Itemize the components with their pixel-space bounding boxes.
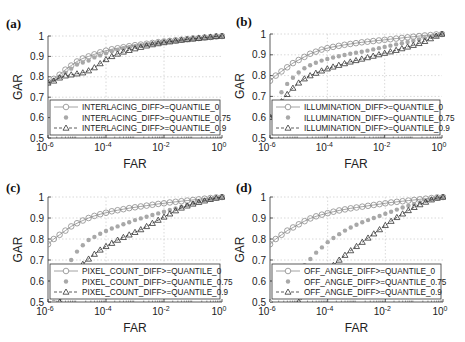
x-tick-label: 10-6 [258,305,275,317]
data-point [91,65,97,70]
data-point [343,228,347,232]
data-point [389,210,393,214]
data-point [313,70,319,75]
data-point [360,49,364,53]
data-point [81,243,85,247]
data-point [342,252,348,257]
data-point [273,324,279,329]
x-tick-label: 10-4 [316,305,333,317]
x-tick-label: 100 [211,141,226,153]
data-point [314,250,318,254]
data-point [354,243,360,248]
panel-d: (d)0.50.60.70.80.9110-610-410-2100FARGAR… [233,180,448,336]
data-point [121,222,125,226]
data-point [400,211,406,216]
data-point [285,82,289,86]
data-point [360,220,364,224]
data-point [69,258,73,262]
data-point [267,331,273,336]
legend-label: OFF_ANGLE_DIFF>=QUANTILE_0 [304,267,435,276]
data-point [284,312,290,317]
legend-label: PIXEL_COUNT_DIFF>=QUANTILE_0.75 [82,278,233,287]
data-point [81,60,85,64]
data-point [144,223,150,228]
data-point [126,232,132,237]
legend-marker [286,115,290,119]
x-tick-label: 10-6 [36,305,53,317]
x-tick-label: 10-6 [36,141,53,153]
panel-b: (b)0.50.60.70.80.9110-610-410-2100FARGAR… [233,14,455,171]
data-point [86,238,90,242]
data-point [382,45,386,49]
legend: ILLUMINATION_DIFF>=QUANTILE_0ILLUMINATIO… [272,100,455,135]
legend-label: ILLUMINATION_DIFF>=QUANTILE_0.75 [304,114,455,123]
data-point [92,235,96,239]
data-point [268,300,272,304]
data-point [349,225,353,229]
data-point [383,212,387,216]
data-point [103,243,109,248]
y-tick-label: 0.6 [30,112,44,123]
x-tick-label: 100 [431,141,446,153]
y-tick-label: 0.9 [252,49,266,60]
y-tick-label: 0.7 [252,91,266,102]
x-axis-label: FAR [344,157,368,171]
x-tick-label: 10-2 [152,305,169,317]
y-axis-label: GAR [11,236,25,262]
y-axis-label: GAR [233,73,247,99]
y-tick-label: 0.9 [30,51,44,62]
data-point [98,232,102,236]
panel-label: (d) [236,180,252,195]
legend-marker [285,268,291,274]
x-tick-label: 10-4 [316,141,333,153]
panel-a: (a)0.50.60.70.80.9110-610-410-2100FARGAR… [6,16,231,171]
data-point [52,300,56,304]
data-point [331,55,335,59]
data-point [91,251,97,256]
data-point [371,231,377,236]
data-point [388,43,392,47]
data-point [331,236,335,240]
data-point [127,220,131,224]
y-tick-label: 0.6 [30,276,44,287]
data-point [86,58,90,62]
data-point [291,75,295,79]
data-point [109,240,115,245]
x-axis-label: FAR [123,321,147,335]
y-axis-label: GAR [233,236,247,262]
legend-marker [285,104,291,110]
data-point [319,58,323,62]
y-tick-label: 1 [260,192,266,203]
data-point [365,48,369,52]
data-point [354,223,358,227]
y-tick-label: 1 [38,31,44,42]
data-point [348,52,352,56]
panel-label: (a) [6,16,21,31]
y-axis-label: GAR [11,74,25,100]
y-tick-label: 1 [260,29,266,40]
y-tick-label: 0.7 [30,92,44,103]
data-point [308,257,312,261]
data-point [377,214,381,218]
legend-label: ILLUMINATION_DIFF>=QUANTILE_0.9 [304,124,450,133]
x-tick-label: 10-4 [94,141,111,153]
data-point [354,51,358,55]
legend-label: PIXEL_COUNT_DIFF>=QUANTILE_0.9 [82,288,229,297]
data-point [133,218,137,222]
panel-label: (c) [6,180,20,195]
data-point [150,213,154,217]
data-point [75,249,79,253]
y-tick-label: 0.9 [252,213,266,224]
data-point [69,66,73,70]
data-point [337,54,341,58]
y-tick-label: 0.8 [252,70,266,81]
data-point [167,211,173,216]
legend: PIXEL_COUNT_DIFF>=QUANTILE_0PIXEL_COUNT_… [50,264,233,299]
legend-label: INTERLACING_DIFF>=QUANTILE_0 [82,103,220,112]
data-point [394,42,398,46]
x-tick-label: 100 [211,305,226,317]
legend-label: OFF_ANGLE_DIFF>=QUANTILE_0.9 [304,288,442,297]
y-tick-label: 1 [38,192,44,203]
panel-c: (c)0.50.60.70.80.9110-610-410-2100FARGAR… [6,180,233,335]
data-point [302,66,306,70]
